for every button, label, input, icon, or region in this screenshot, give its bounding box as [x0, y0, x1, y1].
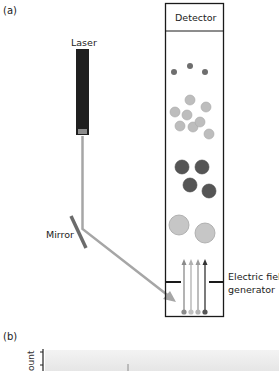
flow-cytometry-diagram [0, 0, 279, 371]
detector-column [166, 4, 224, 317]
laser-beam [83, 136, 177, 302]
deflection-arrows [181, 259, 207, 315]
particles-dark [175, 160, 216, 198]
particles-medium [170, 95, 214, 139]
histogram-chart-area [40, 349, 279, 371]
particles-small [171, 63, 208, 75]
laser-icon [76, 49, 89, 135]
y-axis-label: ount [27, 351, 36, 371]
particles-large [169, 215, 215, 243]
